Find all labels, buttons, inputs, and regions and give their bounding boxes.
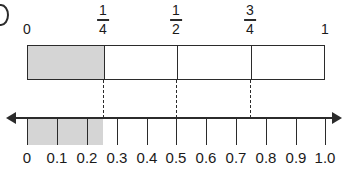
number-line-label: 0.4 bbox=[137, 150, 158, 165]
number-line-label: 0.3 bbox=[107, 150, 128, 165]
bar-endpoint-label-1: 1 bbox=[321, 22, 329, 36]
number-line-label: 0 bbox=[23, 150, 31, 165]
number-line-axis bbox=[12, 117, 338, 119]
dashed-connector-quarter bbox=[103, 80, 104, 118]
number-line-shaded-region bbox=[27, 119, 103, 145]
bar-endpoint-label-0: 0 bbox=[23, 22, 31, 36]
number-line-tick bbox=[325, 118, 326, 145]
number-line-label: 0.8 bbox=[256, 150, 277, 165]
fraction-label-one-quarter: 1 4 bbox=[97, 3, 109, 37]
number-line-label: 0.1 bbox=[47, 150, 68, 165]
fraction-numerator: 1 bbox=[170, 3, 182, 18]
number-line-tick bbox=[296, 118, 297, 145]
fraction-label-one-half: 1 2 bbox=[170, 3, 182, 37]
number-line-label: 0.6 bbox=[196, 150, 217, 165]
fraction-denominator: 2 bbox=[170, 22, 182, 37]
fraction-numerator: 1 bbox=[97, 3, 109, 18]
arrow-right-icon bbox=[332, 112, 342, 124]
number-line-label: 0.2 bbox=[77, 150, 98, 165]
number-line-label: 1.0 bbox=[315, 150, 336, 165]
number-line-tick bbox=[236, 118, 237, 145]
dashed-connector-half bbox=[176, 80, 177, 118]
number-line-label: 0.7 bbox=[226, 150, 247, 165]
number-line-tick bbox=[206, 118, 207, 145]
cropped-label-glyph bbox=[0, 4, 9, 26]
number-line-tick bbox=[176, 118, 177, 145]
number-line-label: 0.5 bbox=[166, 150, 187, 165]
number-line-tick bbox=[57, 118, 58, 145]
fraction-denominator: 4 bbox=[244, 22, 256, 37]
fraction-number-line-figure: 0 1 1 4 1 2 3 4 0 0.1 0.2 0.3 0.4 bbox=[0, 0, 348, 180]
number-line-tick bbox=[266, 118, 267, 145]
fraction-bar-model bbox=[27, 45, 325, 80]
bar-shaded-region bbox=[28, 46, 104, 79]
dashed-connector-three-quarters bbox=[250, 80, 251, 118]
arrow-left-icon bbox=[6, 112, 16, 124]
fraction-denominator: 4 bbox=[97, 22, 109, 37]
number-line-tick bbox=[27, 118, 28, 145]
bar-divider-half bbox=[177, 46, 178, 79]
number-line-tick bbox=[87, 118, 88, 145]
number-line-label: 0.9 bbox=[286, 150, 307, 165]
bar-divider-quarter bbox=[104, 46, 105, 79]
number-line-tick bbox=[147, 118, 148, 145]
bar-divider-three-quarters bbox=[251, 46, 252, 79]
number-line-tick bbox=[117, 118, 118, 145]
fraction-numerator: 3 bbox=[244, 3, 256, 18]
fraction-label-three-quarters: 3 4 bbox=[244, 3, 256, 37]
